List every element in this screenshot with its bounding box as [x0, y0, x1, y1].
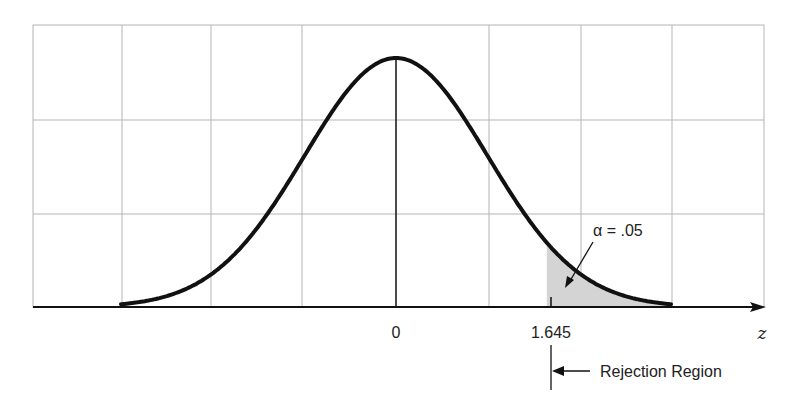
alpha-label: α = .05	[593, 222, 643, 239]
tick-label-zero: 0	[392, 324, 401, 341]
normal-curve-chart: 0 1.645 z α = .05 Rejection Region	[0, 0, 797, 413]
rejection-area-shading	[547, 243, 671, 307]
grid	[33, 25, 764, 307]
rejection-region-label: Rejection Region	[600, 363, 722, 380]
rejection-arrow-icon	[552, 366, 590, 376]
tick-label-critical: 1.645	[531, 324, 571, 341]
axis-label-z: z	[757, 323, 768, 343]
